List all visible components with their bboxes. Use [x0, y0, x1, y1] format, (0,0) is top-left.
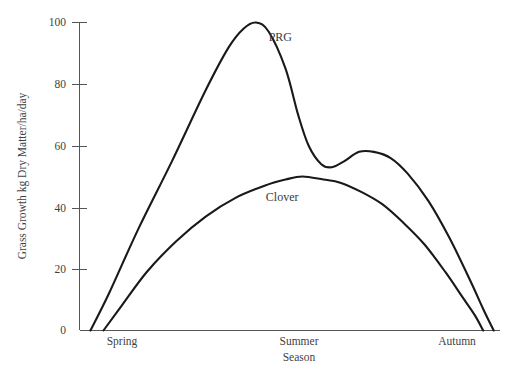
x-category-label-spring: Spring [107, 335, 138, 348]
y-tick-label-0: 0 [60, 324, 66, 336]
chart-canvas: 100 80 60 40 20 0 Grass Growth kg Dry Ma… [0, 0, 518, 381]
y-tick-label-60: 60 [55, 140, 67, 152]
x-category-label-summer: Summer [280, 335, 319, 347]
y-tick-label-100: 100 [49, 16, 67, 28]
grass-growth-chart: 100 80 60 40 20 0 Grass Growth kg Dry Ma… [0, 0, 518, 381]
x-axis-title: Season [283, 351, 316, 363]
y-axis-title: Grass Growth kg Dry Matter/ha/day [16, 92, 29, 259]
x-category-label-autumn: Autumn [438, 335, 476, 347]
y-tick-label-40: 40 [55, 202, 67, 214]
series-curve-prg [90, 22, 493, 330]
y-tick-label-20: 20 [55, 263, 67, 275]
series-label-clover: Clover [266, 190, 299, 204]
y-tick-label-80: 80 [55, 78, 67, 90]
series-label-prg: PRG [269, 30, 293, 44]
